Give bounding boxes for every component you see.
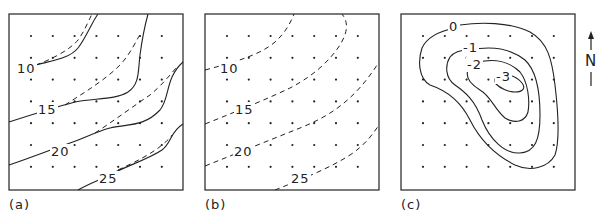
panel-b-label-10: 10: [219, 61, 240, 76]
grid-dot: [52, 166, 54, 168]
grid-dot: [74, 35, 76, 37]
grid-dot: [313, 122, 315, 124]
grid-dot: [95, 122, 97, 124]
grid-dot: [553, 100, 555, 102]
grid-dot: [357, 122, 359, 124]
grid-dot: [553, 166, 555, 168]
grid-dot: [30, 35, 32, 37]
grid-dot: [509, 57, 511, 59]
grid-dot: [117, 122, 119, 124]
panel-c-label-minus1: -1: [462, 40, 479, 55]
grid-dot: [139, 144, 141, 146]
grid-dot: [335, 100, 337, 102]
grid-dot: [553, 122, 555, 124]
grid-dot: [444, 166, 446, 168]
grid-dot: [52, 122, 54, 124]
grid-dot: [248, 166, 250, 168]
grid-dot: [30, 144, 32, 146]
panel-a-label-25: 25: [98, 171, 119, 186]
grid-dot: [270, 144, 272, 146]
grid-dot: [291, 144, 293, 146]
grid-dot: [313, 79, 315, 81]
grid-dot: [357, 100, 359, 102]
grid-dot: [74, 166, 76, 168]
panel-a-label-10: 10: [16, 61, 37, 76]
grid-dot: [226, 79, 228, 81]
grid-dot: [531, 57, 533, 59]
panel-b-caption: (b): [205, 197, 226, 212]
grid-dot: [95, 57, 97, 59]
grid-dot: [422, 122, 424, 124]
grid-dot: [74, 79, 76, 81]
grid-dot: [531, 100, 533, 102]
panel-b-label-25: 25: [290, 171, 311, 186]
grid-dot: [444, 57, 446, 59]
grid-dot: [74, 144, 76, 146]
grid-dot: [30, 122, 32, 124]
grid-dot: [95, 35, 97, 37]
grid-dot: [248, 79, 250, 81]
grid-dot: [52, 79, 54, 81]
panel-c-grid-dots: [422, 35, 555, 168]
grid-dot: [357, 166, 359, 168]
grid-dot: [509, 166, 511, 168]
panel-c: [401, 14, 575, 190]
grid-dot: [117, 166, 119, 168]
grid-dot: [444, 144, 446, 146]
grid-dot: [466, 35, 468, 37]
panel-b-label-15: 15: [234, 102, 255, 117]
grid-dot: [291, 35, 293, 37]
grid-dot: [444, 35, 446, 37]
grid-dot: [226, 166, 228, 168]
grid-dot: [248, 122, 250, 124]
grid-dot: [117, 57, 119, 59]
grid-dot: [291, 57, 293, 59]
grid-dot: [335, 57, 337, 59]
grid-dot: [422, 57, 424, 59]
grid-dot: [487, 57, 489, 59]
north-arrow-head-icon: [588, 31, 594, 39]
grid-dot: [74, 57, 76, 59]
grid-dot: [357, 79, 359, 81]
grid-dot: [531, 166, 533, 168]
grid-dot: [139, 166, 141, 168]
grid-dot: [117, 79, 119, 81]
grid-dot: [30, 100, 32, 102]
grid-dot: [161, 122, 163, 124]
grid-dot: [95, 144, 97, 146]
grid-dot: [95, 79, 97, 81]
grid-dot: [466, 100, 468, 102]
grid-dot: [487, 100, 489, 102]
panel-a: [9, 14, 183, 190]
grid-dot: [291, 166, 293, 168]
panel-b-label-20: 20: [233, 144, 254, 159]
panel-a-contour-10-solid: [36, 14, 98, 65]
grid-dot: [139, 79, 141, 81]
grid-dot: [117, 144, 119, 146]
panel-c-caption: (c): [401, 197, 421, 212]
grid-dot: [30, 79, 32, 81]
grid-dot: [270, 57, 272, 59]
grid-dot: [466, 79, 468, 81]
grid-dot: [226, 144, 228, 146]
grid-dot: [226, 35, 228, 37]
grid-dot: [422, 100, 424, 102]
grid-dot: [313, 35, 315, 37]
panel-b: [205, 14, 379, 190]
grid-dot: [444, 100, 446, 102]
grid-dot: [444, 79, 446, 81]
grid-dot: [553, 144, 555, 146]
panel-c-contour-minus1: [447, 48, 540, 153]
grid-dot: [531, 122, 533, 124]
grid-dot: [553, 35, 555, 37]
grid-dot: [335, 144, 337, 146]
panel-a-contour-15-dashed: [65, 35, 140, 105]
grid-dot: [270, 100, 272, 102]
grid-dot: [466, 166, 468, 168]
grid-dot: [161, 166, 163, 168]
panel-a-caption: (a): [9, 197, 30, 212]
grid-dot: [313, 166, 315, 168]
grid-dot: [270, 35, 272, 37]
grid-dot: [226, 122, 228, 124]
grid-dot: [487, 166, 489, 168]
